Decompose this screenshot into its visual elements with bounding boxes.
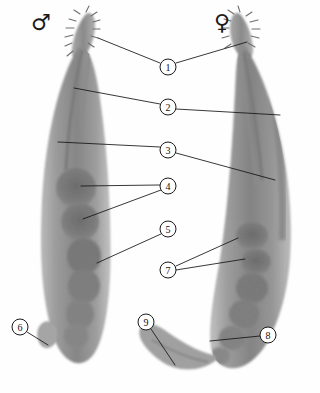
callout-number-1: 1 <box>166 62 171 73</box>
callout-5[interactable]: 5 <box>160 221 176 237</box>
female-symbol: ♀ <box>214 10 230 35</box>
leader-line-1-1 <box>98 38 160 63</box>
callout-number-6: 6 <box>18 322 23 333</box>
callout-number-8: 8 <box>266 330 271 341</box>
callout-1[interactable]: 1 <box>160 59 176 75</box>
figure-canvas: ♂♀ 123456789 <box>0 0 320 393</box>
female-tissue-texture <box>214 220 284 370</box>
callout-number-3: 3 <box>166 145 171 156</box>
callout-number-5: 5 <box>166 224 171 235</box>
callout-number-9: 9 <box>144 317 149 328</box>
male-tissue-texture <box>55 170 107 350</box>
male-bursa <box>38 322 58 348</box>
callout-6[interactable]: 6 <box>12 319 28 335</box>
callout-number-2: 2 <box>166 102 171 113</box>
callout-number-7: 7 <box>166 265 171 276</box>
callout-number-4: 4 <box>166 181 171 192</box>
callout-7[interactable]: 7 <box>160 262 176 278</box>
callout-4[interactable]: 4 <box>160 178 176 194</box>
callout-9[interactable]: 9 <box>138 314 154 330</box>
male-symbol: ♂ <box>31 10 51 35</box>
sex-symbols: ♂♀ <box>31 10 230 35</box>
male-specimen <box>38 6 110 363</box>
callout-8[interactable]: 8 <box>260 327 276 343</box>
anatomy-figure: ♂♀ 123456789 <box>0 0 320 393</box>
leader-line-1-2 <box>176 42 247 63</box>
callout-2[interactable]: 2 <box>160 99 176 115</box>
callout-3[interactable]: 3 <box>160 142 176 158</box>
